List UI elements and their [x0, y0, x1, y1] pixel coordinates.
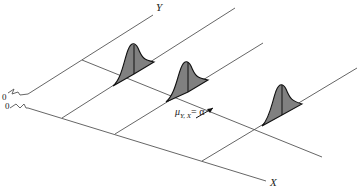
regression-diagram: Y X 0 0 μY, X= α	[0, 0, 359, 188]
mu-rhs: = α	[191, 106, 205, 117]
x-axis-break-icon	[10, 104, 28, 108]
x-axis-label: X	[269, 176, 278, 188]
y-axis-break-icon	[8, 89, 28, 95]
mean-annotation: μY, X= α	[174, 106, 205, 120]
normal-curve-2	[166, 62, 208, 102]
origin-label-x: 0	[5, 101, 10, 111]
y-axis-label: Y	[156, 1, 164, 13]
mu-subscript: Y, X	[180, 112, 192, 120]
